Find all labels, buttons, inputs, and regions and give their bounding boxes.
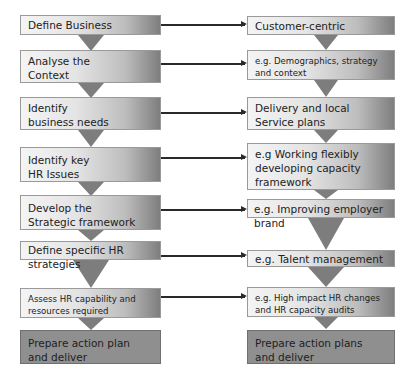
right-step-talent-management: e.g. Talent management	[247, 250, 395, 267]
left-step-identify-hr-issues: Identify key HR Issues	[20, 147, 161, 182]
left-step-develop-strategic-framework: Develop the Strategic framework	[20, 195, 161, 230]
left-step-define-hr-strategies: Define specific HR strategies	[20, 241, 161, 260]
left-step-define-business: Define Business	[20, 15, 161, 35]
arrow-connector	[161, 63, 245, 65]
right-step-delivery-service-plans: Delivery and local Service plans	[247, 97, 395, 130]
funnel-connector	[308, 218, 344, 250]
arrow-connector	[161, 296, 245, 298]
right-step-working-flexibly: e.g Working flexibly developing capacity…	[247, 143, 395, 190]
funnel-connector	[78, 182, 104, 196]
arrow-connector	[161, 255, 245, 257]
left-step-prepare-action-plan: Prepare action plan and deliver	[20, 330, 161, 364]
funnel-connector	[78, 130, 104, 147]
arrow-connector	[161, 112, 245, 114]
right-step-customer-centric: Customer-centric	[247, 16, 395, 35]
arrow-connector	[161, 24, 245, 26]
left-step-identify-business-needs: Identify business needs	[20, 97, 161, 130]
funnel-connector	[78, 35, 104, 51]
funnel-connector	[314, 80, 338, 97]
arrow-connector	[161, 157, 245, 159]
arrow-connector	[161, 209, 245, 211]
funnel-connector	[308, 267, 344, 287]
right-step-high-impact-hr: e.g. High impact HR changes and HR capac…	[247, 287, 395, 317]
funnel-connector	[78, 83, 104, 98]
left-step-analyse-context: Analyse the Context	[20, 50, 161, 83]
right-step-demographics: e.g. Demographics, strategy and context	[247, 50, 395, 80]
funnel-connector	[314, 190, 338, 199]
funnel-connector	[78, 230, 104, 241]
funnel-connector	[314, 35, 338, 50]
right-step-prepare-action-plans: Prepare action plans and deliver	[247, 330, 395, 364]
right-step-employer-brand: e.g. Improving employer brand	[247, 199, 395, 218]
funnel-connector	[78, 318, 104, 330]
funnel-connector	[314, 130, 338, 143]
left-step-assess-hr-capability: Assess HR capability and resources requi…	[20, 288, 161, 318]
funnel-connector	[314, 317, 338, 329]
